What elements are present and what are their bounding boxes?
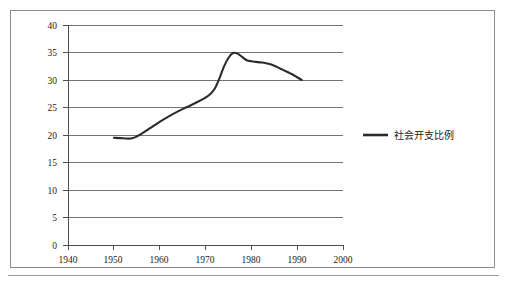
- x-tick-marks: [68, 245, 343, 250]
- series-line-social-expenditure: [114, 53, 302, 139]
- chart-frame: 40 35 30 25 20 15 10 5 0 1940 1950 1960 …: [10, 10, 495, 268]
- y-tick-label: 40: [48, 21, 58, 31]
- y-tick-label: 5: [52, 213, 57, 223]
- bottom-horizontal-rule: [8, 275, 499, 276]
- x-tick-label: 1980: [242, 255, 261, 265]
- gridlines: [68, 25, 343, 217]
- y-tick-label: 15: [48, 158, 58, 168]
- y-tick-label: 25: [48, 103, 58, 113]
- x-tick-label: 2000: [334, 255, 353, 265]
- y-axis-tick-labels: 40 35 30 25 20 15 10 5 0: [48, 21, 58, 251]
- legend: 社会开支比例: [363, 129, 454, 141]
- y-tick-marks: [63, 25, 68, 245]
- x-axis-tick-labels: 1940 1950 1960 1970 1980 1990 2000: [59, 255, 353, 265]
- figure: 40 35 30 25 20 15 10 5 0 1940 1950 1960 …: [0, 0, 507, 284]
- x-tick-label: 1990: [288, 255, 307, 265]
- legend-label: 社会开支比例: [394, 129, 454, 141]
- y-tick-label: 10: [48, 186, 58, 196]
- x-tick-label: 1950: [104, 255, 123, 265]
- x-tick-label: 1940: [59, 255, 78, 265]
- x-tick-label: 1960: [150, 255, 169, 265]
- y-tick-label: 35: [48, 48, 58, 58]
- line-chart-plot: 40 35 30 25 20 15 10 5 0 1940 1950 1960 …: [11, 11, 494, 267]
- x-tick-label: 1970: [196, 255, 215, 265]
- y-tick-label: 20: [48, 131, 58, 141]
- y-tick-label: 0: [52, 241, 57, 251]
- y-tick-label: 30: [48, 76, 58, 86]
